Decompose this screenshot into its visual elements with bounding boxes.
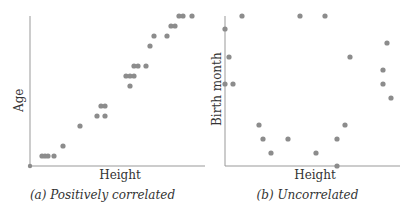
caption: (a) Positively correlated bbox=[0, 188, 205, 202]
data-point bbox=[143, 63, 148, 68]
x-axis-label: Height bbox=[255, 168, 375, 182]
data-point bbox=[268, 150, 273, 155]
data-point bbox=[380, 81, 385, 86]
data-point bbox=[180, 13, 185, 18]
data-point bbox=[347, 54, 352, 59]
data-point bbox=[51, 153, 56, 158]
data-point bbox=[334, 136, 339, 141]
data-point bbox=[222, 26, 227, 31]
data-point bbox=[226, 54, 231, 59]
origin-point bbox=[28, 164, 32, 168]
chart-positively-correlated: Age Height (a) Positively correlated bbox=[0, 0, 205, 214]
data-point bbox=[384, 40, 389, 45]
data-point bbox=[256, 122, 261, 127]
data-point bbox=[164, 33, 169, 38]
data-point bbox=[131, 73, 136, 78]
data-point bbox=[102, 113, 107, 118]
data-point bbox=[102, 103, 107, 108]
data-point bbox=[147, 43, 152, 48]
chart-uncorrelated: Birth month Height (b) Uncorrelated bbox=[205, 0, 410, 214]
data-point bbox=[172, 23, 177, 28]
data-point bbox=[230, 81, 235, 86]
x-axis-label: Height bbox=[60, 168, 180, 182]
data-point bbox=[297, 13, 302, 18]
data-point bbox=[260, 136, 265, 141]
data-point bbox=[189, 13, 194, 18]
data-point bbox=[77, 123, 82, 128]
data-point bbox=[313, 150, 318, 155]
data-point bbox=[388, 95, 393, 100]
y-axis-label: Age bbox=[12, 89, 26, 112]
data-point bbox=[60, 143, 65, 148]
data-point bbox=[45, 153, 50, 158]
data-point bbox=[322, 13, 327, 18]
data-point bbox=[135, 63, 140, 68]
data-point bbox=[380, 67, 385, 72]
data-point bbox=[239, 13, 244, 18]
data-point bbox=[151, 33, 156, 38]
data-point bbox=[342, 122, 347, 127]
y-axis-label: Birth month bbox=[210, 52, 224, 126]
caption: (b) Uncorrelated bbox=[205, 188, 410, 202]
data-point bbox=[285, 136, 290, 141]
data-point bbox=[94, 113, 99, 118]
data-point bbox=[127, 83, 132, 88]
